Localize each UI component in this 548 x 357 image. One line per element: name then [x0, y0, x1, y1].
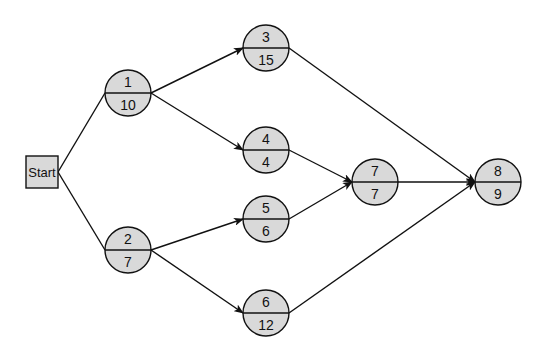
- edge-start-to-2: [58, 172, 105, 250]
- node-id-label: 7: [371, 163, 379, 179]
- edge-2-to-5: [151, 219, 243, 250]
- node-duration-label: 9: [494, 186, 502, 202]
- activity-node-7[interactable]: 77: [352, 159, 398, 205]
- edge-1-to-4: [151, 93, 243, 150]
- node-duration-label: 7: [371, 186, 379, 202]
- activity-node-5[interactable]: 56: [243, 196, 289, 242]
- activity-node-8[interactable]: 89: [475, 159, 521, 205]
- edge-2-to-6: [151, 250, 243, 313]
- start-label: Start: [28, 165, 56, 180]
- node-id-label: 6: [262, 294, 270, 310]
- activity-node-2[interactable]: 27: [105, 227, 151, 273]
- activity-node-4[interactable]: 44: [243, 127, 289, 173]
- node-id-label: 8: [494, 163, 502, 179]
- node-id-label: 1: [124, 74, 132, 90]
- nodes-layer: 1102731544566127789: [105, 25, 521, 336]
- node-duration-label: 12: [258, 317, 274, 333]
- node-duration-label: 6: [262, 223, 270, 239]
- edge-start-to-1: [58, 93, 105, 172]
- node-id-label: 5: [262, 200, 270, 216]
- node-duration-label: 15: [258, 52, 274, 68]
- network-diagram: Start 1102731544566127789: [0, 0, 548, 357]
- edge-4-to-7: [289, 150, 352, 182]
- activity-node-6[interactable]: 612: [243, 290, 289, 336]
- edge-1-to-3: [151, 48, 243, 93]
- node-duration-label: 4: [262, 154, 270, 170]
- node-duration-label: 10: [120, 97, 136, 113]
- activity-node-3[interactable]: 315: [243, 25, 289, 71]
- node-id-label: 2: [124, 231, 132, 247]
- node-duration-label: 7: [124, 254, 132, 270]
- start-node[interactable]: Start: [26, 156, 58, 188]
- edge-5-to-7: [289, 182, 352, 219]
- node-id-label: 3: [262, 29, 270, 45]
- node-id-label: 4: [262, 131, 270, 147]
- activity-node-1[interactable]: 110: [105, 70, 151, 116]
